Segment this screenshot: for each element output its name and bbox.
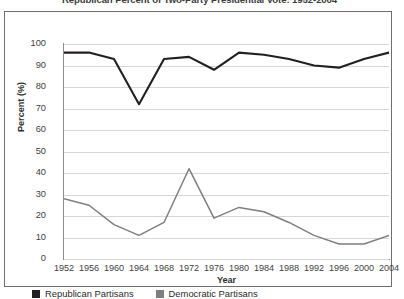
y-axis-tick-label: 100 — [16, 39, 46, 48]
gridline — [64, 259, 389, 260]
y-axis-tick-label: 90 — [16, 61, 46, 70]
plot-area — [64, 44, 389, 259]
y-axis-label: Percent (%) — [16, 82, 26, 132]
y-axis-tick-label: 50 — [16, 147, 46, 156]
legend-swatch-icon — [32, 290, 40, 298]
legend-item-label: Democratic Partisans — [169, 288, 258, 299]
series-line — [64, 169, 389, 244]
y-axis-tick-label: 20 — [16, 211, 46, 220]
x-axis-label: Year — [64, 275, 389, 285]
y-axis-tick-label: 10 — [16, 233, 46, 242]
y-axis-tick-label: 0 — [16, 254, 46, 263]
series-line — [64, 53, 389, 105]
chart-legend: Republican PartisansDemocratic Partisans — [32, 288, 258, 299]
y-axis-tick-label: 30 — [16, 190, 46, 199]
chart-title: Republican Percent of Two-Party Presiden… — [0, 0, 399, 7]
legend-item[interactable]: Democratic Partisans — [156, 288, 258, 299]
y-axis-tick-label: 40 — [16, 168, 46, 177]
legend-swatch-icon — [156, 290, 164, 298]
series-lines — [64, 44, 389, 259]
chart-panel: 0102030405060708090100 19521956196019641… — [4, 11, 392, 287]
legend-item-label: Republican Partisans — [45, 288, 134, 299]
legend-item[interactable]: Republican Partisans — [32, 288, 134, 299]
x-axis-tick-label: 2004 — [372, 263, 404, 273]
